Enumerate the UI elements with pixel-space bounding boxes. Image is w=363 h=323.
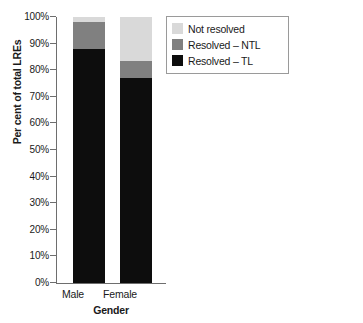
x-axis-title: Gender bbox=[46, 304, 176, 316]
legend-item: Resolved – NTL bbox=[172, 37, 283, 52]
chart-legend: Not resolvedResolved – NTLResolved – TL bbox=[166, 16, 289, 74]
y-axis-tick-label: 40% bbox=[9, 170, 49, 184]
y-axis-tick: 50% bbox=[8, 143, 56, 157]
y-axis-tick: 60% bbox=[8, 116, 56, 130]
bar-segment bbox=[120, 61, 152, 78]
bar-segment bbox=[73, 17, 105, 22]
y-axis-tick: 20% bbox=[8, 223, 56, 237]
bar-segment bbox=[120, 17, 152, 61]
y-axis-tick: 40% bbox=[8, 170, 56, 184]
y-axis-tick-label: 50% bbox=[9, 143, 49, 157]
y-axis-tick-label: 90% bbox=[9, 37, 49, 51]
y-axis-tick-label: 70% bbox=[9, 90, 49, 104]
y-axis-tick: 80% bbox=[8, 63, 56, 77]
bar-segment bbox=[73, 22, 105, 49]
legend-item: Not resolved bbox=[172, 21, 283, 36]
legend-swatch bbox=[172, 39, 183, 50]
x-axis-label-female: Female bbox=[90, 288, 150, 300]
legend-label: Resolved – NTL bbox=[188, 39, 260, 51]
y-axis-tick-label: 80% bbox=[9, 63, 49, 77]
x-axis-line bbox=[56, 283, 166, 284]
y-axis-tick-label: 30% bbox=[9, 196, 49, 210]
y-axis-tick: 90% bbox=[8, 37, 56, 51]
y-axis-tick-label: 10% bbox=[9, 249, 49, 263]
bar-segment bbox=[73, 49, 105, 283]
plot-area bbox=[56, 17, 166, 283]
stacked-bar-chart: Per cent of total LREs 0%10%20%30%40%50%… bbox=[0, 0, 363, 323]
y-axis-tick: 100% bbox=[8, 10, 56, 24]
bar-female bbox=[120, 17, 152, 283]
y-axis-tick: 30% bbox=[8, 196, 56, 210]
y-axis-tick: 10% bbox=[8, 249, 56, 263]
y-axis-tick: 70% bbox=[8, 90, 56, 104]
legend-item: Resolved – TL bbox=[172, 53, 283, 68]
y-axis-tick-label: 20% bbox=[9, 223, 49, 237]
legend-label: Resolved – TL bbox=[188, 55, 253, 67]
bar-male bbox=[73, 17, 105, 283]
bar-segment bbox=[120, 78, 152, 283]
legend-label: Not resolved bbox=[188, 23, 245, 35]
legend-swatch bbox=[172, 23, 183, 34]
y-axis-tick-label: 60% bbox=[9, 116, 49, 130]
y-axis-tick-label: 100% bbox=[9, 10, 49, 24]
legend-swatch bbox=[172, 55, 183, 66]
